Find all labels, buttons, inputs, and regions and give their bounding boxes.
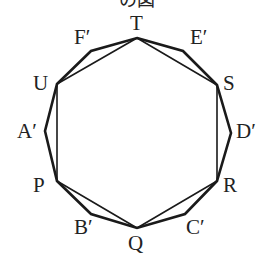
vertex-label: C′ <box>186 215 205 239</box>
vertex-label: Q <box>128 231 143 255</box>
vertex-label: F′ <box>74 25 90 49</box>
inner-hexagon <box>57 38 217 228</box>
vertex-label: P <box>33 173 45 197</box>
vertex-label: T <box>130 11 143 35</box>
vertex-label: D′ <box>236 119 256 143</box>
vertex-labels: TE′SD′RC′QB′PA′UF′ <box>17 11 256 255</box>
outer-dodecagon <box>45 38 231 228</box>
vertex-label: E′ <box>190 25 207 49</box>
vertex-label: R <box>223 173 237 197</box>
octagon-diagram: の図 TE′SD′RC′QB′PA′UF′ <box>0 0 274 266</box>
vertex-label: U <box>33 71 48 95</box>
figure-title: の図 <box>119 0 155 10</box>
vertex-label: A′ <box>17 119 37 143</box>
vertex-label: S <box>223 71 235 95</box>
vertex-label: B′ <box>74 215 93 239</box>
